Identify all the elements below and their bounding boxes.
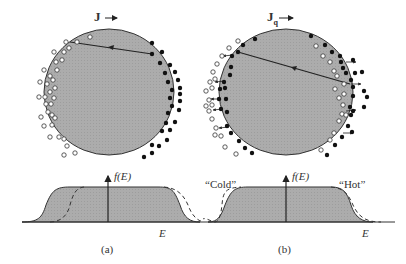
cold-label: “Cold”	[205, 178, 236, 190]
caption-b: (b)	[278, 243, 291, 255]
panel-a-graphic	[0, 0, 203, 264]
panel-a: J f(E) E (a)	[0, 0, 203, 264]
hot-label: “Hot”	[339, 178, 365, 190]
energy-axis-label: E	[362, 227, 369, 239]
fermi-distribution-filled	[22, 187, 200, 222]
heat-current-label: Jq	[267, 9, 278, 27]
fe-axis-label: f(E)	[292, 170, 309, 182]
panel-b-graphic	[203, 0, 406, 264]
energy-axis-label: E	[159, 227, 166, 239]
heat-current-subscript: q	[274, 18, 278, 27]
caption-a: (a)	[101, 243, 113, 255]
current-label: J	[94, 9, 101, 25]
fermi-distribution-filled	[208, 187, 373, 222]
fe-axis-label: f(E)	[114, 170, 131, 182]
panel-b: Jq “Cold” “Hot” f(E) E (b)	[203, 0, 406, 264]
fermi-sphere	[219, 29, 353, 155]
